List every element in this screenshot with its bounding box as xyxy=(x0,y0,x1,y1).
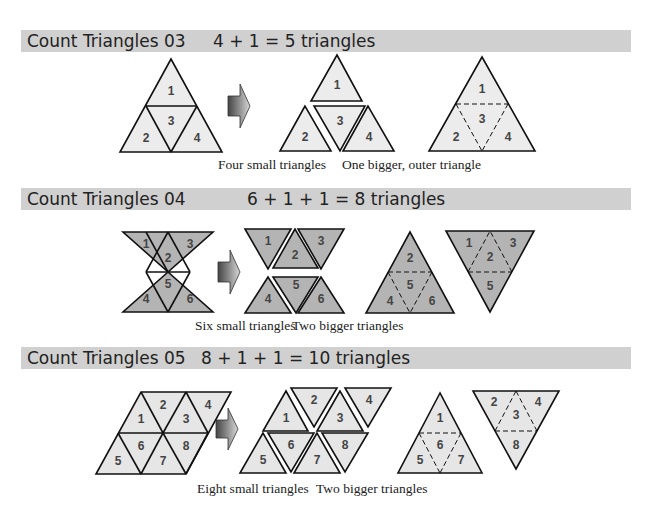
svg-text:5: 5 xyxy=(417,453,424,467)
svg-text:5: 5 xyxy=(165,277,172,291)
svg-text:2: 2 xyxy=(143,131,150,145)
svg-text:3: 3 xyxy=(168,114,175,128)
svg-text:4: 4 xyxy=(143,292,150,306)
svg-text:2: 2 xyxy=(311,393,318,407)
svg-text:6: 6 xyxy=(318,292,325,306)
svg-text:2: 2 xyxy=(160,398,167,412)
section-03-outer xyxy=(429,57,535,151)
svg-text:2: 2 xyxy=(487,250,494,264)
svg-text:5: 5 xyxy=(293,278,300,292)
svg-text:1: 1 xyxy=(168,84,175,98)
svg-text:3: 3 xyxy=(187,237,194,251)
section-04-separated xyxy=(245,229,344,313)
svg-text:1: 1 xyxy=(466,236,473,250)
section-03-original xyxy=(120,59,222,152)
section-04-upright-big xyxy=(366,232,454,313)
svg-text:2: 2 xyxy=(407,251,414,265)
svg-text:1: 1 xyxy=(283,411,290,425)
svg-text:6: 6 xyxy=(288,438,295,452)
svg-text:3: 3 xyxy=(337,411,344,425)
section-03-figure xyxy=(120,55,535,152)
svg-text:3: 3 xyxy=(510,236,517,250)
svg-text:3: 3 xyxy=(479,112,486,126)
svg-text:8: 8 xyxy=(342,438,349,452)
svg-text:7: 7 xyxy=(160,454,167,468)
svg-text:1: 1 xyxy=(265,234,272,248)
svg-text:1: 1 xyxy=(143,237,150,251)
svg-text:2: 2 xyxy=(165,251,172,265)
svg-text:3: 3 xyxy=(337,114,344,128)
section-04-inverted-big xyxy=(446,231,534,312)
svg-text:4: 4 xyxy=(194,131,201,145)
svg-text:2: 2 xyxy=(453,130,460,144)
svg-text:1: 1 xyxy=(437,411,444,425)
svg-text:5: 5 xyxy=(407,278,414,292)
right-arrow-icon xyxy=(228,84,250,128)
svg-text:4: 4 xyxy=(535,395,542,409)
svg-text:3: 3 xyxy=(318,234,325,248)
svg-text:8: 8 xyxy=(183,439,190,453)
svg-text:5: 5 xyxy=(115,454,122,468)
svg-text:6: 6 xyxy=(138,439,145,453)
svg-text:4: 4 xyxy=(366,393,373,407)
svg-text:2: 2 xyxy=(292,248,299,262)
svg-text:4: 4 xyxy=(265,292,272,306)
section-05-upright-big xyxy=(398,393,482,473)
section-04-figure xyxy=(123,229,534,313)
svg-text:4: 4 xyxy=(505,130,512,144)
triangle-figures: 1234 1234 1234 xyxy=(0,0,657,510)
svg-text:8: 8 xyxy=(513,438,520,452)
svg-text:6: 6 xyxy=(437,438,444,452)
svg-text:6: 6 xyxy=(187,292,194,306)
svg-text:7: 7 xyxy=(314,453,321,467)
svg-text:4: 4 xyxy=(366,130,373,144)
svg-text:4: 4 xyxy=(205,398,212,412)
svg-text:2: 2 xyxy=(491,395,498,409)
svg-text:3: 3 xyxy=(183,412,190,426)
svg-text:7: 7 xyxy=(458,453,465,467)
svg-text:6: 6 xyxy=(429,294,436,308)
svg-text:4: 4 xyxy=(387,294,394,308)
section-05-inverted-big xyxy=(473,391,559,469)
right-arrow-icon xyxy=(218,250,240,294)
svg-text:1: 1 xyxy=(334,78,341,92)
section-03-separated xyxy=(280,55,394,151)
section-04-original xyxy=(123,232,213,312)
svg-text:5: 5 xyxy=(487,279,494,293)
svg-text:1: 1 xyxy=(479,82,486,96)
svg-text:3: 3 xyxy=(513,408,520,422)
svg-text:1: 1 xyxy=(138,412,145,426)
svg-text:2: 2 xyxy=(302,130,309,144)
svg-text:5: 5 xyxy=(260,453,267,467)
